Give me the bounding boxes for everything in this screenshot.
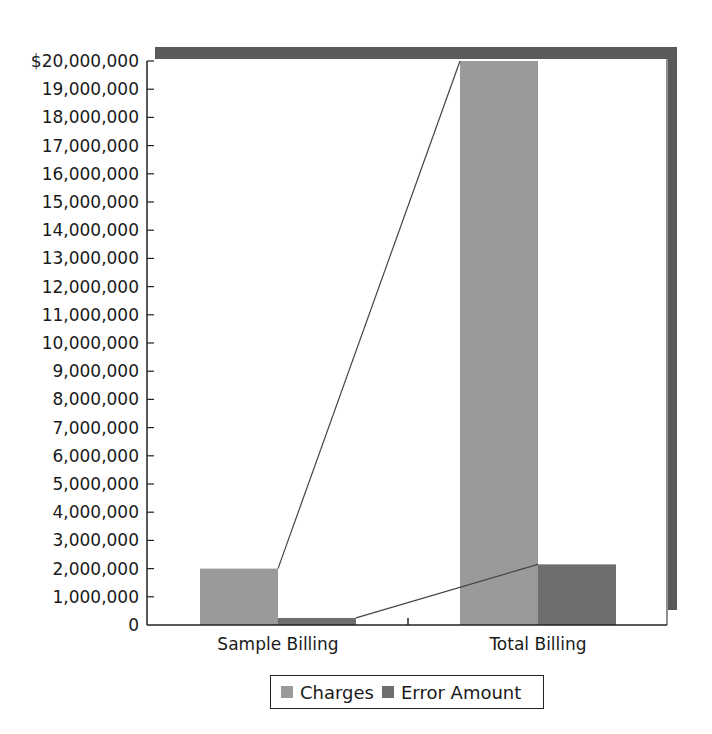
y-tick-label: 10,000,000 [42,333,139,353]
y-tick-label: 17,000,000 [42,136,139,156]
x-axis-labels: Sample BillingTotal Billing [217,634,586,654]
error-amount-swatch-icon [382,686,394,698]
y-tick-label: 19,000,000 [42,79,139,99]
legend-item-error-amount: Error Amount [382,682,521,703]
legend-label: Error Amount [401,682,521,703]
y-axis-ticks: 01,000,0002,000,0003,000,0004,000,0005,0… [31,51,154,635]
bar-chart: 01,000,0002,000,0003,000,0004,000,0005,0… [0,0,712,734]
bar-charges-sample-billing [200,569,278,625]
y-tick-label: 13,000,000 [42,248,139,268]
bar-charges-total-billing [460,61,538,625]
y-tick-label: 3,000,000 [52,530,139,550]
legend: Charges Error Amount [270,675,544,709]
y-tick-label: $20,000,000 [31,51,139,71]
x-category-label: Total Billing [488,634,586,654]
y-tick-label: 15,000,000 [42,192,139,212]
y-tick-label: 9,000,000 [52,361,139,381]
frame-shadow-top [155,47,677,59]
y-tick-label: 5,000,000 [52,474,139,494]
y-tick-label: 1,000,000 [52,587,139,607]
y-tick-label: 14,000,000 [42,220,139,240]
bar-error-amount-sample-billing [278,618,356,625]
charges-swatch-icon [281,686,293,698]
y-tick-label: 4,000,000 [52,502,139,522]
plot-area [147,59,667,625]
y-tick-label: 2,000,000 [52,559,139,579]
legend-label: Charges [300,682,374,703]
y-tick-label: 18,000,000 [42,107,139,127]
y-tick-label: 6,000,000 [52,446,139,466]
frame-shadow-right [668,47,677,610]
bar-error-amount-total-billing [538,564,616,625]
legend-item-charges: Charges [281,682,374,703]
x-category-label: Sample Billing [217,634,338,654]
y-tick-label: 11,000,000 [42,305,139,325]
y-tick-label: 8,000,000 [52,389,139,409]
y-tick-label: 7,000,000 [52,418,139,438]
y-tick-label: 12,000,000 [42,277,139,297]
y-tick-label: 16,000,000 [42,164,139,184]
y-tick-label: 0 [128,615,139,635]
